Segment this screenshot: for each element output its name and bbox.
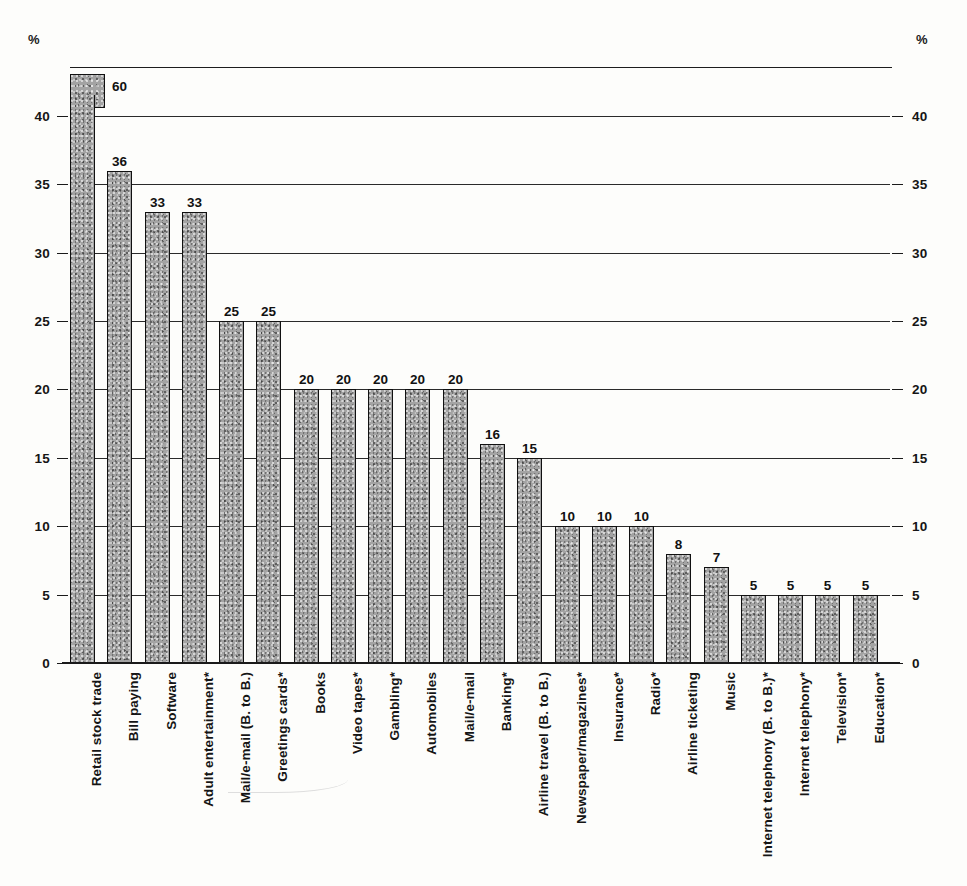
x-axis-baseline [62,662,900,664]
bar-value-label: 5 [862,578,870,593]
bar-value-label: 20 [336,372,351,387]
x-category-label: Books [313,672,328,714]
bar: 20 [443,389,468,663]
x-category-label: Software [164,672,179,730]
bar: 5 [778,595,803,663]
y-tick-left [57,184,68,185]
bar-value-label: 15 [522,441,537,456]
y-tick-label-left: 0 [42,656,50,671]
bar: 10 [629,526,654,663]
x-category-label: Adult entertainment* [201,672,216,807]
x-category-label: Mail/e-mail [462,672,477,742]
y-tick-label-left: 25 [34,314,50,329]
y-tick-label-left: 35 [34,177,50,192]
x-category-label: Insurance* [611,672,626,742]
y-tick-label-left: 30 [34,245,50,260]
y-tick-label-right: 25 [912,314,928,329]
x-category-label: Greetings cards* [275,672,290,782]
y-tick-label-right: 0 [912,656,920,671]
bar: 33 [145,212,170,663]
x-category-label: Mail/e-mail (B. to B.) [238,672,253,803]
bar-value-label: 20 [299,372,314,387]
bar-value-label: 5 [824,578,832,593]
y-tick-label-left: 20 [34,382,50,397]
bar-value-label: 36 [112,154,127,169]
y-tick-left [57,389,68,390]
bar-value-label: 10 [634,509,649,524]
y-tick-label-left: 10 [34,519,50,534]
bar: 15 [517,458,542,663]
x-category-label: Banking* [499,672,514,731]
y-tick-label-left: 15 [34,450,50,465]
bar-value-label: 5 [787,578,795,593]
x-category-label: Radio* [648,672,663,715]
y-tick-left [57,526,68,527]
bar: 5 [741,595,766,663]
bar-value-label: 10 [597,509,612,524]
bar: 5 [815,595,840,663]
y-tick-label-right: 5 [912,587,920,602]
x-category-label: Internet telephony (B. to B.)* [760,672,775,857]
bar-value-label: 25 [224,304,239,319]
y-tick-label-right: 30 [912,245,928,260]
y-tick-left [57,253,68,254]
bar: 10 [592,526,617,663]
bar: 10 [555,526,580,663]
y-tick-label-right: 10 [912,519,928,534]
bar: 20 [331,389,356,663]
bar-value-label: 33 [150,195,165,210]
gridline [70,184,890,185]
bar: 5 [853,595,878,663]
bar: 20 [368,389,393,663]
y-tick-left [57,116,68,117]
bar: 7 [704,567,729,663]
y-tick-right [892,184,903,185]
y-tick-right [892,321,903,322]
bar-value-label: 5 [750,578,758,593]
bar: 33 [182,212,207,663]
x-category-label: Internet telephony* [797,672,812,796]
bar-value-label: 20 [410,372,425,387]
x-category-label: Television* [834,672,849,743]
bar: 36 [107,171,132,663]
y-tick-label-right: 40 [912,108,928,123]
bar: 25 [256,321,281,663]
y-tick-right [892,389,903,390]
bar-value-label: 8 [675,537,683,552]
y-tick-label-left: 40 [34,108,50,123]
y-axis-unit-left: % [28,32,40,47]
y-tick-right [892,458,903,459]
x-category-label: Automobiles [424,672,439,755]
y-tick-label-right: 35 [912,177,928,192]
x-category-label: Airline ticketing [685,672,700,775]
y-tick-right [892,253,903,254]
y-tick-label-right: 20 [912,382,928,397]
y-axis-unit-right: % [916,32,928,47]
x-category-label: Video tapes* [350,672,365,754]
gridline [70,116,890,117]
x-category-label: Retail stock trade [89,672,104,786]
bar-value-label: 25 [261,304,276,319]
bar-value-label: 7 [713,550,721,565]
x-category-label: Education* [872,672,887,744]
bar-chart: % % 60 0510152025303540 0510152025303540… [0,0,967,886]
bar-value-label: 20 [373,372,388,387]
y-tick-right [892,595,903,596]
bar: 20 [405,389,430,663]
bar: 8 [666,554,691,663]
x-category-label: Airline travel (B. to B.) [536,672,551,816]
x-category-label: Newspaper/magazines* [574,672,589,824]
y-tick-right [892,116,903,117]
y-tick-left [57,321,68,322]
y-tick-label-right: 15 [912,450,928,465]
bar: 16 [480,444,505,663]
bar-value-label: 16 [485,427,500,442]
plot-area: 0510152025303540 0510152025303540 363333… [70,68,890,663]
bar: 20 [294,389,319,663]
x-category-label: Gambling* [387,672,402,740]
bar [70,95,95,663]
bar-value-label: 20 [448,372,463,387]
x-category-label: Bill paying [126,672,141,741]
y-tick-right [892,526,903,527]
bar-value-label: 33 [187,195,202,210]
